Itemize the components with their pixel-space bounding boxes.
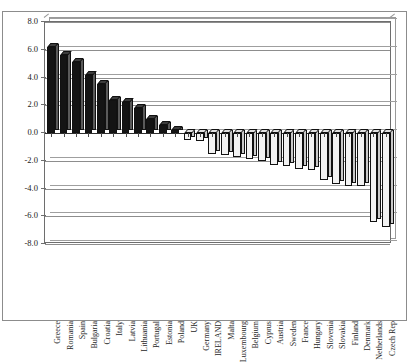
x-axis-label-poland: Poland — [177, 321, 186, 343]
gridline-back-8.0 — [50, 18, 397, 19]
x-axis-label-finland: Finland — [351, 321, 360, 345]
x-axis-label-germany: Germany — [202, 321, 211, 351]
x-axis-label-sweden: Sweden — [289, 321, 298, 346]
x-tick-poland — [175, 133, 176, 137]
x-axis-label-ireland: IRELAND — [214, 321, 223, 356]
x-tick-estonia — [163, 133, 164, 137]
x-axis-label-italy: Italy — [115, 321, 124, 336]
x-tick-slovakia — [336, 133, 337, 137]
y-tick-label-6.0: 6.0 — [27, 44, 38, 54]
x-tick-slovenia — [324, 133, 325, 137]
x-axis-label-slovenia: Slovenia — [326, 321, 335, 349]
x-tick-cyprus — [262, 133, 263, 137]
x-axis-label-croatia: Croatia — [103, 321, 112, 345]
x-axis-label-malta: Malta — [227, 321, 236, 340]
bar-face — [320, 133, 328, 180]
bar-estonia — [159, 125, 167, 133]
bar-france — [295, 133, 303, 169]
bar-netherlands — [370, 133, 378, 222]
x-tick-malta — [225, 133, 226, 137]
x-axis-label-greece: Greece — [53, 321, 62, 344]
bar-series — [45, 22, 392, 244]
x-axis-label-austria: Austria — [276, 321, 285, 345]
plot-shell — [44, 21, 396, 243]
bar-spain — [72, 62, 80, 133]
bar-side — [241, 130, 245, 154]
x-tick-belgium — [249, 133, 250, 137]
x-tick-denmark — [361, 133, 362, 137]
x-tick-finland — [349, 133, 350, 137]
x-tick-spain — [76, 133, 77, 137]
x-axis-label-lithuania: Lithuania — [140, 321, 149, 352]
y-tick-mark--8.0 — [41, 243, 46, 244]
x-axis-label-uk: UK — [190, 321, 199, 333]
bar-face — [357, 133, 365, 186]
bar-side — [253, 130, 257, 156]
bar-side — [229, 130, 233, 152]
bar-side — [67, 52, 71, 130]
bar-side — [365, 130, 369, 183]
bar-cyprus — [258, 133, 266, 161]
bar-face — [159, 125, 167, 133]
x-tick-czech-rep — [386, 133, 387, 137]
x-tick-ireland — [212, 133, 213, 137]
bar-face — [47, 47, 55, 133]
bar-face — [345, 133, 353, 186]
plot-area — [44, 21, 391, 243]
bar-face — [270, 133, 278, 165]
bar-side — [80, 59, 84, 130]
bar-latvia — [122, 102, 130, 133]
bar-side — [290, 130, 294, 163]
bar-face — [72, 62, 80, 133]
bar-face — [283, 133, 291, 166]
y-tick-mark--2.0 — [41, 160, 46, 161]
bar-face — [370, 133, 378, 222]
x-axis-label-portugal: Portugal — [152, 321, 161, 348]
x-axis-label-cyprus: Cyprus — [264, 321, 273, 344]
x-tick-bulgaria — [88, 133, 89, 137]
bar-face — [332, 133, 340, 184]
y-tick-mark-0.0 — [41, 132, 46, 133]
x-tick-romania — [64, 133, 65, 137]
bar-face — [134, 108, 142, 133]
x-axis-label-czech-rep: Czech Rep — [388, 321, 397, 356]
chart-title — [0, 0, 411, 2]
x-tick-uk — [188, 133, 189, 137]
bar-side — [278, 130, 282, 162]
y-tick-label-4.0: 4.0 — [27, 72, 38, 82]
x-tick-portugal — [150, 133, 151, 137]
bar-face — [97, 84, 105, 133]
bar-side — [117, 97, 121, 130]
x-axis-label-spain: Spain — [78, 321, 87, 339]
x-tick-germany — [200, 133, 201, 137]
bar-slovenia — [320, 133, 328, 180]
bar-face — [109, 100, 117, 133]
bar-side — [92, 72, 96, 130]
bar-portugal — [146, 119, 154, 133]
y-tick-mark--4.0 — [41, 188, 46, 189]
y-tick-label-8.0: 8.0 — [27, 16, 38, 26]
x-tick-lithuania — [138, 133, 139, 137]
x-axis-label-estonia: Estonia — [165, 321, 174, 345]
bar-czech-rep — [382, 133, 390, 227]
bar-side — [340, 130, 344, 181]
y-tick-label-2.0: 2.0 — [27, 99, 38, 109]
x-axis-label-bulgaria: Bulgaria — [90, 321, 99, 349]
x-axis-labels: GreeceRomaniaSpainBulgariaCroatiaItalyLa… — [44, 245, 396, 323]
bar-face — [85, 75, 93, 133]
x-axis-label-hungary: Hungary — [313, 321, 322, 349]
x-tick-italy — [113, 133, 114, 137]
bar-slovakia — [332, 133, 340, 184]
y-tick-mark-2.0 — [41, 104, 46, 105]
x-tick-austria — [274, 133, 275, 137]
bar-side — [377, 130, 381, 219]
bar-sweden — [283, 133, 291, 166]
bar-side — [105, 81, 109, 130]
bar-side — [266, 130, 270, 158]
x-axis-label-denmark: Denmark — [363, 321, 372, 351]
x-axis-label-netherlands: Netherlands — [375, 321, 384, 360]
x-tick-greece — [51, 133, 52, 137]
bar-hungary — [308, 133, 316, 170]
x-axis-label-france: France — [301, 321, 310, 343]
